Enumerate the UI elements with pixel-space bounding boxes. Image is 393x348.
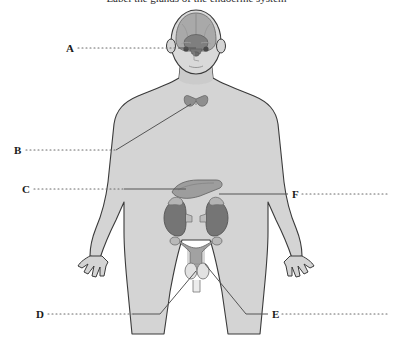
label-letter-a: A [66,43,74,54]
label-letter-f: F [292,189,299,200]
anatomy-figure [0,0,393,348]
label-letter-d: D [36,309,44,320]
label-letter-b: B [14,145,21,156]
label-letter-e: E [272,309,279,320]
label-letter-c: C [22,184,30,195]
brain-organ [176,13,216,56]
diagram-page: Label the glands of the endocrine system [0,0,393,348]
ovary-left [170,237,180,245]
ovary-right [212,237,222,245]
